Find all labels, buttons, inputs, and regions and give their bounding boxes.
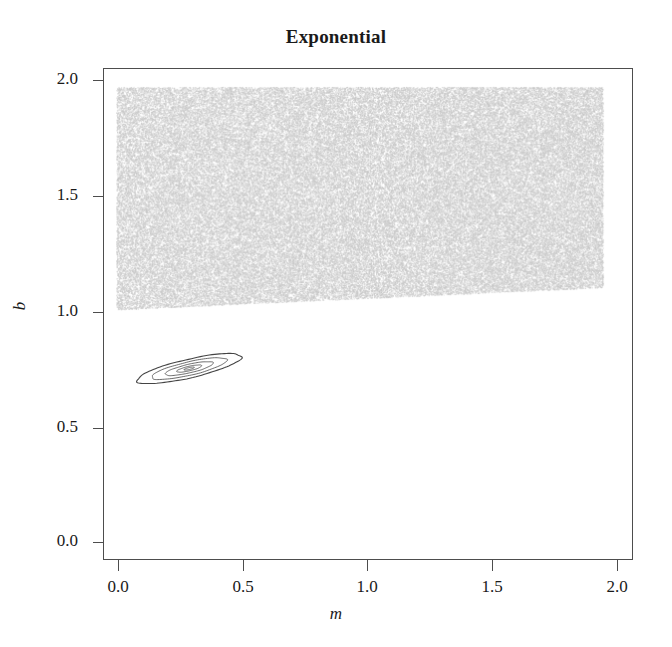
y-axis-label: b — [10, 302, 30, 311]
chart-title: Exponential — [0, 26, 672, 48]
ytick-label-0.5: 0.5 — [22, 417, 78, 437]
xtick-mark-1.0 — [367, 560, 368, 571]
xtick-mark-2.0 — [617, 560, 618, 571]
ytick-mark-1.0 — [93, 312, 104, 313]
ytick-mark-1.5 — [93, 196, 104, 197]
xtick-label-2.0: 2.0 — [582, 577, 652, 597]
xtick-label-1.5: 1.5 — [457, 577, 527, 597]
posterior-contour-ellipses — [104, 69, 632, 559]
xtick-mark-0.0 — [118, 560, 119, 571]
xtick-mark-1.5 — [492, 560, 493, 571]
chart-figure: Exponential 2.0 1.5 1.0 0.5 0.0 0.0 0.5 … — [0, 0, 672, 647]
ytick-label-1.5: 1.5 — [22, 185, 78, 205]
xtick-label-0.0: 0.0 — [83, 577, 153, 597]
ytick-mark-0.5 — [93, 428, 104, 429]
contour-level-1 — [137, 353, 243, 383]
x-axis-label: m — [0, 604, 672, 624]
xtick-label-0.5: 0.5 — [208, 577, 278, 597]
plot-area — [103, 68, 633, 560]
ytick-mark-0.0 — [93, 542, 104, 543]
xtick-label-1.0: 1.0 — [332, 577, 402, 597]
ytick-label-2.0: 2.0 — [22, 69, 78, 89]
ytick-label-1.0: 1.0 — [22, 301, 78, 321]
ytick-mark-2.0 — [93, 80, 104, 81]
xtick-mark-0.5 — [243, 560, 244, 571]
contour-level-0.72 — [152, 358, 227, 380]
ytick-label-0.0: 0.0 — [22, 531, 78, 551]
